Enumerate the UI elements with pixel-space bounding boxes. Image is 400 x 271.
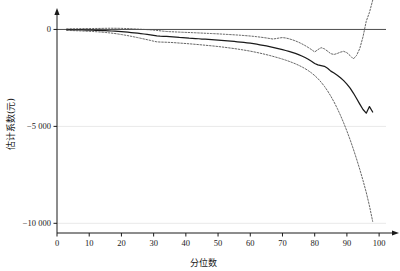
quantile-regression-chart: 0−5 000−10 000 0102030405060708090100 分位… bbox=[0, 0, 400, 271]
plot-background bbox=[0, 0, 400, 271]
y-axis-tick-label: −5 000 bbox=[27, 121, 51, 131]
chart-canvas: 0−5 000−10 000 0102030405060708090100 分位… bbox=[0, 0, 400, 271]
x-axis-tick-label: 70 bbox=[278, 238, 287, 248]
y-axis-title: 估计系数(元) bbox=[5, 98, 16, 150]
y-axis-tick-label: 0 bbox=[47, 24, 51, 34]
x-axis-tick-label: 50 bbox=[214, 238, 223, 248]
x-axis-tick-label: 10 bbox=[85, 238, 94, 248]
x-axis-tick-label: 30 bbox=[149, 238, 158, 248]
x-axis-tick-label: 0 bbox=[55, 238, 59, 248]
x-axis-tick-label: 80 bbox=[310, 238, 319, 248]
x-axis-tick-label: 90 bbox=[343, 238, 352, 248]
y-axis-tick-label: −10 000 bbox=[23, 218, 51, 228]
x-axis-title: 分位数 bbox=[190, 257, 217, 268]
x-axis-tick-label: 20 bbox=[117, 238, 126, 248]
x-axis-tick-label: 100 bbox=[373, 238, 386, 248]
x-axis-tick-label: 60 bbox=[246, 238, 255, 248]
x-axis-tick-label: 40 bbox=[182, 238, 191, 248]
